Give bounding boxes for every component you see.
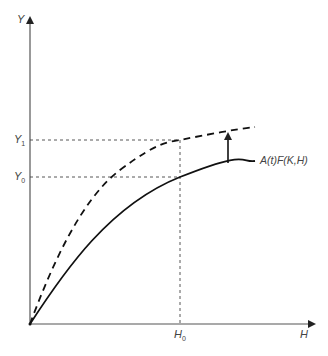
curve-label: A(t)F(K,H) (260, 155, 308, 166)
y1-label: Y1 (14, 134, 25, 147)
x-axis-label: H (300, 329, 308, 340)
origin-point (29, 323, 32, 326)
production-curve-dashed (30, 127, 255, 324)
y-axis-label: Y (17, 14, 24, 25)
production-function-diagram (0, 0, 328, 356)
h0-label: H0 (174, 329, 186, 342)
y0-label: Y0 (14, 171, 25, 184)
production-curve-solid (30, 159, 255, 324)
